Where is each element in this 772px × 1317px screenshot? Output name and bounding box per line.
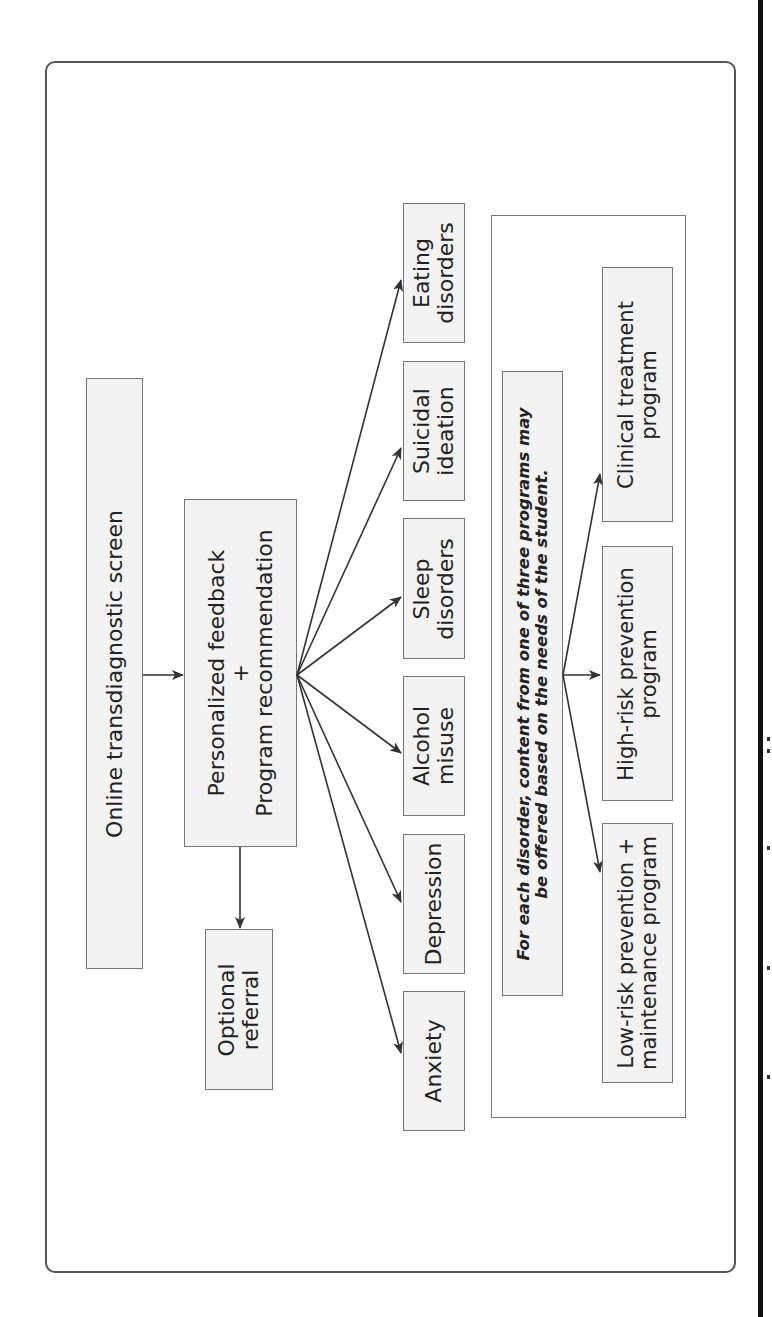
feedback-label: Personalized feedback + Program recommen… — [205, 529, 276, 816]
program-label: High-risk prevention program — [615, 567, 660, 780]
online-screen-label: Online transdiagnostic screen — [103, 510, 127, 838]
edge-mark — [767, 737, 770, 741]
edge-mark — [767, 749, 770, 753]
disorder-label: Anxiety — [422, 1019, 446, 1102]
program-line-2: program — [638, 301, 661, 489]
edge-mark — [767, 1075, 770, 1079]
program-low-risk: Low-risk prevention + maintenance progra… — [602, 823, 673, 1083]
disorder-line-1: Eating — [410, 222, 434, 324]
note-text: For each disorder, content from one of t… — [514, 407, 551, 960]
program-line-1: Clinical treatment — [615, 301, 638, 489]
optional-referral-node: Optional referral — [205, 929, 273, 1090]
program-line-2: program — [638, 567, 661, 780]
program-high-risk: High-risk prevention program — [602, 546, 673, 801]
edge-mark — [767, 846, 770, 850]
disorder-alcohol: Alcohol misuse — [403, 676, 465, 816]
program-label: Clinical treatment program — [615, 301, 660, 489]
referral-label: Optional referral — [215, 963, 263, 1056]
note-line-2: be offered based on the needs of the stu… — [533, 407, 551, 960]
disorder-depression: Depression — [403, 834, 465, 974]
disorder-line-1: Anxiety — [422, 1019, 446, 1102]
disorder-anxiety: Anxiety — [403, 991, 465, 1131]
disorder-line-1: Sleep — [410, 538, 434, 640]
note-line-1: For each disorder, content from one of t… — [514, 407, 532, 960]
disorder-line-2: misuse — [434, 706, 458, 786]
disorder-line-1: Suicidal — [410, 386, 434, 475]
feedback-line-1: Personalized feedback — [205, 529, 229, 816]
disorder-line-2: disorders — [434, 222, 458, 324]
disorder-line-2: ideation — [434, 386, 458, 475]
disorder-eating: Eating disorders — [403, 203, 465, 343]
disorder-line-2: disorders — [434, 538, 458, 640]
page-edge-line — [758, 0, 763, 1317]
feedback-node: Personalized feedback + Program recommen… — [184, 499, 297, 847]
program-line-1: Low-risk prevention + — [615, 836, 638, 1070]
online-screen-node: Online transdiagnostic screen — [86, 378, 143, 969]
referral-line-1: Optional — [215, 963, 239, 1056]
program-clinical: Clinical treatment program — [602, 267, 673, 522]
program-label: Low-risk prevention + maintenance progra… — [615, 836, 660, 1070]
disorder-sleep: Sleep disorders — [403, 518, 465, 659]
disorder-label: Eating disorders — [410, 222, 458, 324]
disorder-line-1: Alcohol — [410, 706, 434, 786]
programs-note: For each disorder, content from one of t… — [502, 371, 563, 996]
feedback-line-2: + — [229, 529, 253, 816]
disorder-line-1: Depression — [422, 843, 446, 966]
disorder-label: Alcohol misuse — [410, 706, 458, 786]
disorder-label: Depression — [422, 843, 446, 966]
referral-line-2: referral — [239, 963, 263, 1056]
disorder-suicidal: Suicidal ideation — [403, 361, 465, 501]
edge-mark — [767, 966, 770, 970]
feedback-line-3: Program recommendation — [252, 529, 276, 816]
disorder-label: Suicidal ideation — [410, 386, 458, 475]
program-line-1: High-risk prevention — [615, 567, 638, 780]
disorder-label: Sleep disorders — [410, 538, 458, 640]
program-line-2: maintenance program — [638, 836, 661, 1070]
